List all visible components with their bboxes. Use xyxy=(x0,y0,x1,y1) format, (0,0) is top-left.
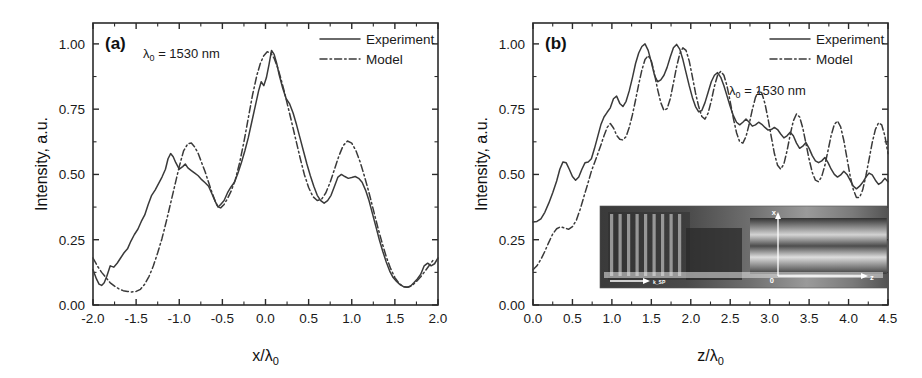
x-tick-label: 1.5 xyxy=(385,311,404,326)
x-tick-label: 1.0 xyxy=(342,311,361,326)
legend-label-model: Model xyxy=(366,52,403,67)
x-tick-label: 1.5 xyxy=(642,311,661,326)
inset-micrograph: x0zk_SP xyxy=(600,206,887,288)
y-tick-label: 1.00 xyxy=(59,37,85,52)
x-tick-label: -2.0 xyxy=(81,311,104,326)
x-tick-label: 2.0 xyxy=(681,311,700,326)
x-tick-label: 1.0 xyxy=(602,311,621,326)
inset-label-z: z xyxy=(870,273,874,282)
x-tick-label: 2.5 xyxy=(721,311,740,326)
legend: ExperimentModel xyxy=(770,32,885,67)
series-experiment xyxy=(93,50,438,287)
y-tick-label: 0.00 xyxy=(59,298,85,313)
y-tick-label: 0.75 xyxy=(59,102,85,117)
y-tick-label: 0.75 xyxy=(499,102,525,117)
x-tick-label: 4.5 xyxy=(879,311,898,326)
x-tick-label: 0.0 xyxy=(256,311,275,326)
inset-label-origin: 0 xyxy=(770,276,774,285)
inset-bright-band xyxy=(604,272,883,278)
x-tick-label: 4.0 xyxy=(839,311,858,326)
panel-label: (b) xyxy=(545,34,567,53)
x-tick-label: 3.0 xyxy=(760,311,779,326)
wavelength-annotation: λ0 = 1530 nm xyxy=(729,83,806,100)
y-tick-label: 0.00 xyxy=(499,298,525,313)
legend-label-experiment: Experiment xyxy=(366,32,435,47)
chart-svg-b: 0.00.51.01.52.02.53.03.54.04.50.000.250.… xyxy=(461,0,922,378)
series-model xyxy=(93,52,434,292)
x-tick-label: -1.0 xyxy=(168,311,191,326)
panel-label: (a) xyxy=(105,34,126,53)
x-tick-label: 3.5 xyxy=(800,311,819,326)
x-tick-label: 0.0 xyxy=(524,311,543,326)
y-axis-title: Intensity, a.u. xyxy=(33,117,50,211)
x-tick-label: -1.5 xyxy=(124,311,147,326)
y-tick-label: 0.50 xyxy=(499,167,525,182)
x-axis-title: x/λ0 xyxy=(252,347,279,367)
x-axis-title: z/λ0 xyxy=(697,347,724,367)
y-tick-label: 0.50 xyxy=(59,167,85,182)
legend: ExperimentModel xyxy=(320,32,435,67)
legend-label-model: Model xyxy=(816,52,853,67)
x-tick-label: 2.0 xyxy=(429,311,448,326)
x-tick-label: -0.5 xyxy=(211,311,234,326)
y-axis-title: Intensity, a.u. xyxy=(473,117,490,211)
y-tick-label: 0.25 xyxy=(59,233,85,248)
legend-label-experiment: Experiment xyxy=(816,32,885,47)
series-experiment xyxy=(533,44,888,222)
figure-container: -2.0-1.5-1.0-0.50.00.51.01.52.00.000.250… xyxy=(0,0,922,378)
x-tick-label: 0.5 xyxy=(299,311,318,326)
inset-beam xyxy=(750,218,887,274)
inset-label-ksp: k_SP xyxy=(653,279,666,285)
wavelength-annotation: λ0 = 1530 nm xyxy=(143,46,220,63)
inset-grating-region xyxy=(608,212,690,280)
chart-panel-b: 0.00.51.01.52.02.53.03.54.04.50.000.250.… xyxy=(461,0,922,378)
y-tick-label: 0.25 xyxy=(499,233,525,248)
y-tick-label: 1.00 xyxy=(499,37,525,52)
chart-panel-a: -2.0-1.5-1.0-0.50.00.51.01.52.00.000.250… xyxy=(0,0,461,378)
x-tick-label: 0.5 xyxy=(563,311,582,326)
chart-svg-a: -2.0-1.5-1.0-0.50.00.51.01.52.00.000.250… xyxy=(0,0,461,378)
